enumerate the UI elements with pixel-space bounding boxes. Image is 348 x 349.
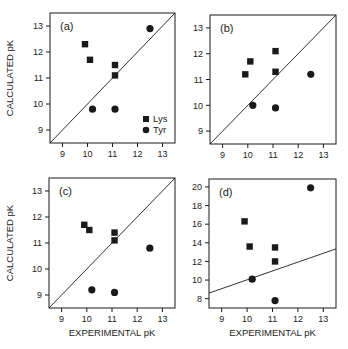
- x-tick-label: 9: [219, 314, 224, 324]
- x-tick-label: 13: [318, 314, 328, 324]
- panel-label: (c): [59, 185, 72, 197]
- tyr-point: [111, 289, 118, 296]
- y-tick-label: 11: [194, 75, 203, 85]
- lys-point: [242, 71, 248, 77]
- y-tick-label: 18: [192, 201, 202, 211]
- panel-d: 9101112138101214161820(d)EXPERIMENTAL pK: [192, 179, 336, 338]
- tyr-point: [146, 245, 153, 252]
- x-tick-label: 11: [268, 150, 277, 160]
- panel-a: 910111213910111213(a)CALCULATED pKLysTyr: [4, 13, 175, 159]
- reference-line: [209, 249, 336, 293]
- y-tick-label: 11: [34, 73, 43, 83]
- x-axis-title: EXPERIMENTAL pK: [229, 327, 316, 338]
- y-tick-label: 10: [32, 264, 42, 274]
- y-tick-label: 9: [198, 126, 203, 136]
- tyr-point: [89, 106, 96, 113]
- x-tick-label: 12: [132, 314, 142, 324]
- legend-circle-icon: [143, 127, 150, 134]
- y-tick-label: 10: [193, 101, 203, 111]
- tyr-point: [111, 106, 118, 113]
- tyr-point: [307, 184, 314, 191]
- y-tick-label: 20: [192, 182, 202, 192]
- legend-label: Tyr: [153, 124, 166, 135]
- x-tick-label: 12: [293, 314, 303, 324]
- panel-b: 910111213910111213(b): [193, 15, 336, 160]
- x-tick-label: 10: [82, 149, 92, 159]
- y-tick-label: 10: [192, 275, 202, 285]
- x-tick-label: 13: [318, 150, 328, 160]
- x-tick-label: 11: [107, 314, 116, 324]
- lys-point: [272, 48, 278, 54]
- y-tick-label: 12: [32, 212, 42, 222]
- tyr-point: [272, 104, 279, 111]
- y-tick-label: 8: [197, 294, 202, 304]
- lys-point: [241, 218, 247, 224]
- y-tick-label: 16: [192, 219, 202, 229]
- plot-frame: [209, 179, 336, 308]
- y-tick-label: 9: [37, 290, 42, 300]
- y-tick-label: 13: [32, 186, 42, 196]
- tyr-point: [88, 286, 95, 293]
- x-tick-label: 10: [242, 314, 252, 324]
- x-tick-label: 12: [293, 150, 303, 160]
- lys-point: [272, 69, 278, 75]
- x-tick-label: 9: [220, 150, 225, 160]
- panel-label: (a): [60, 20, 73, 32]
- tyr-point: [271, 297, 278, 304]
- x-tick-label: 9: [59, 314, 64, 324]
- y-tick-label: 11: [33, 238, 42, 248]
- panel-c: 910111213910111213(c)CALCULATED pKEXPERI…: [4, 178, 175, 338]
- y-axis-title: CALCULATED pK: [4, 39, 15, 116]
- legend: LysTyr: [143, 113, 168, 135]
- panel-label: (b): [220, 22, 233, 34]
- y-tick-label: 9: [38, 125, 43, 135]
- legend-label: Lys: [153, 113, 168, 124]
- tyr-point: [307, 71, 314, 78]
- x-tick-label: 13: [157, 149, 167, 159]
- x-tick-label: 11: [268, 314, 277, 324]
- y-tick-label: 14: [192, 238, 202, 248]
- lys-point: [112, 72, 118, 78]
- figure: 910111213910111213(a)CALCULATED pKLysTyr…: [0, 0, 348, 349]
- y-tick-label: 10: [33, 99, 43, 109]
- y-tick-label: 13: [33, 21, 43, 31]
- y-axis-title: CALCULATED pK: [4, 204, 15, 281]
- lys-point: [272, 258, 278, 264]
- lys-point: [272, 244, 278, 250]
- y-tick-label: 13: [193, 23, 203, 33]
- y-tick-label: 12: [193, 49, 203, 59]
- tyr-point: [249, 276, 256, 283]
- lys-point: [111, 229, 117, 235]
- y-tick-label: 12: [33, 47, 43, 57]
- tyr-point: [146, 25, 153, 32]
- lys-point: [247, 58, 253, 64]
- lys-point: [111, 237, 117, 243]
- y-tick-label: 12: [192, 257, 202, 267]
- x-tick-label: 10: [82, 314, 92, 324]
- lys-point: [86, 227, 92, 233]
- x-tick-label: 13: [157, 314, 167, 324]
- legend-square-icon: [143, 116, 149, 122]
- lys-point: [87, 57, 93, 63]
- x-tick-label: 12: [132, 149, 142, 159]
- reference-line: [210, 15, 336, 144]
- x-axis-title: EXPERIMENTAL pK: [69, 327, 156, 338]
- x-tick-label: 11: [108, 149, 117, 159]
- x-tick-label: 9: [60, 149, 65, 159]
- lys-point: [246, 243, 252, 249]
- tyr-point: [249, 102, 256, 109]
- x-tick-label: 10: [243, 150, 253, 160]
- lys-point: [82, 41, 88, 47]
- panel-label: (d): [219, 186, 232, 198]
- lys-point: [112, 62, 118, 68]
